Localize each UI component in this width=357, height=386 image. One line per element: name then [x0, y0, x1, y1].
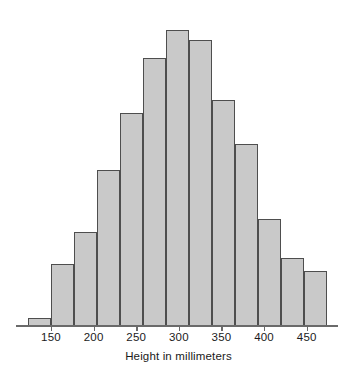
plot-area [28, 14, 328, 326]
x-axis-tick-label: 350 [212, 331, 232, 343]
histogram-figure: 150200250300350400450 Height in millimet… [0, 0, 357, 386]
histogram-bar [143, 58, 166, 326]
x-axis-tick-label: 150 [41, 331, 61, 343]
x-axis-tick-label: 400 [254, 331, 274, 343]
histogram-bar [212, 100, 235, 326]
x-axis-title: Height in millimeters [0, 350, 357, 362]
x-axis-tick-label: 300 [169, 331, 189, 343]
histogram-bar [120, 113, 143, 326]
histogram-bar [51, 264, 74, 326]
histogram-bar [304, 271, 327, 326]
histogram-bar [166, 30, 189, 326]
histogram-bar [74, 232, 97, 326]
x-axis-line [16, 325, 338, 327]
histogram-bar [97, 170, 120, 326]
histogram-bar [189, 40, 212, 326]
histogram-bar [258, 219, 281, 326]
x-axis-tick-label: 200 [84, 331, 104, 343]
histogram-bar [281, 258, 304, 326]
x-axis-tick-label: 250 [126, 331, 146, 343]
histogram-bar [235, 144, 258, 326]
x-axis-tick-label: 450 [297, 331, 317, 343]
bars-layer [28, 14, 328, 326]
